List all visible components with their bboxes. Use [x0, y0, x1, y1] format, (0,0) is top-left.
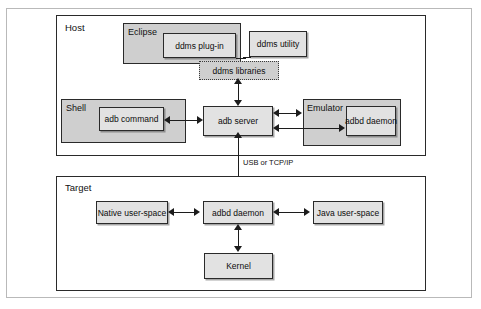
arrow-left-to-adbcommand-icon — [164, 116, 170, 124]
arrow-left-to-native-icon — [168, 208, 174, 216]
node-java-user-space[interactable]: Java user-space — [313, 201, 383, 224]
shell-group-label: Shell — [66, 103, 86, 113]
arrow-right-to-target-adbd-left-icon — [194, 208, 200, 216]
arrow-left-to-adbserver-lower-icon — [273, 124, 279, 132]
node-target-adbd-daemon[interactable]: adbd daemon — [203, 201, 273, 224]
connector-adbcommand-adbserver — [170, 120, 200, 121]
arrow-up-to-adbserver-icon — [234, 132, 242, 138]
connector-adbd-java — [279, 212, 307, 213]
eclipse-group-label: Eclipse — [128, 27, 157, 37]
arrow-up-to-target-adbd-icon — [234, 224, 242, 230]
arrow-left-to-target-adbd-right-icon — [273, 208, 279, 216]
arrow-left-to-adbserver-upper-icon — [273, 109, 279, 117]
edge-label-usb-tcpip: USB or TCP/IP — [243, 158, 293, 167]
target-container-label: Target — [65, 183, 91, 193]
arrow-right-to-emulator-adbd-icon — [339, 124, 345, 132]
connector-plugin-to-libraries — [236, 58, 246, 59]
connector-adbserver-emulator-adbd — [279, 128, 341, 129]
arrow-up-to-libraries-icon — [234, 78, 242, 84]
emulator-group-label: Emulator — [307, 103, 343, 113]
node-adb-command[interactable]: adb command — [99, 107, 164, 131]
arrow-down-to-kernel-icon — [234, 246, 242, 252]
node-emulator-adbd-daemon[interactable]: adbd daemon — [346, 106, 396, 136]
arrow-right-to-java-icon — [304, 208, 310, 216]
page-frame: Host Eclipse ddms plug-in ddms utility d… — [6, 8, 472, 298]
arrow-down-to-adbserver-icon — [234, 100, 242, 106]
connector-utility-to-libraries — [243, 57, 251, 58]
node-ddms-plugin[interactable]: ddms plug-in — [163, 33, 236, 58]
node-kernel[interactable]: Kernel — [204, 253, 273, 279]
diagram-canvas: Host Eclipse ddms plug-in ddms utility d… — [0, 0, 481, 309]
arrow-right-to-adbserver-icon — [197, 116, 203, 124]
node-native-user-space[interactable]: Native user-space — [96, 201, 168, 224]
arrow-right-to-emulator-icon — [296, 109, 302, 117]
host-container-label: Host — [65, 23, 85, 33]
node-ddms-utility[interactable]: ddms utility — [249, 31, 307, 57]
